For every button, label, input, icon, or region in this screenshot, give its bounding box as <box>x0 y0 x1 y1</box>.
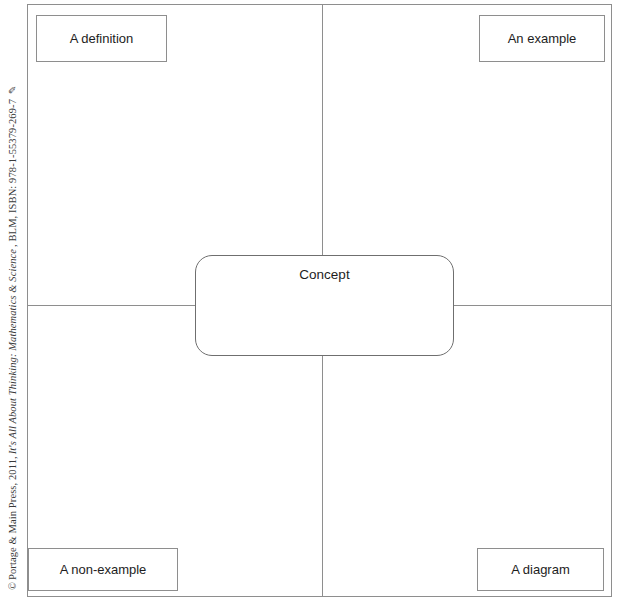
horizontal-divider-right <box>454 305 611 306</box>
vertical-divider-bottom <box>322 356 323 596</box>
copyright-text: © Portage & Main Press, 2011, It's All A… <box>4 10 20 590</box>
frayer-model-page: © Portage & Main Press, 2011, It's All A… <box>0 0 626 611</box>
vertical-divider-top <box>322 5 323 255</box>
horizontal-divider-left <box>28 305 196 306</box>
concept-box[interactable]: Concept <box>195 255 454 356</box>
quadrant-label-non-example[interactable]: A non-example <box>28 548 178 591</box>
quadrant-label-definition[interactable]: A definition <box>36 15 167 62</box>
quadrant-label-example[interactable]: An example <box>479 15 605 62</box>
copyright-publisher: Portage & Main Press, 2011, <box>7 456 18 580</box>
copyright-strip: © Portage & Main Press, 2011, It's All A… <box>0 0 26 611</box>
concept-label: Concept <box>196 267 453 282</box>
copyright-symbol: © <box>7 582 18 590</box>
copyright-book-title: It's All About Thinking: Mathematics & S… <box>7 249 18 454</box>
pencil-icon: ✎ <box>7 85 18 93</box>
copyright-isbn: , BLM, ISBN: 978-1-55379-269-7 <box>7 99 18 247</box>
quadrant-label-diagram[interactable]: A diagram <box>477 548 604 591</box>
